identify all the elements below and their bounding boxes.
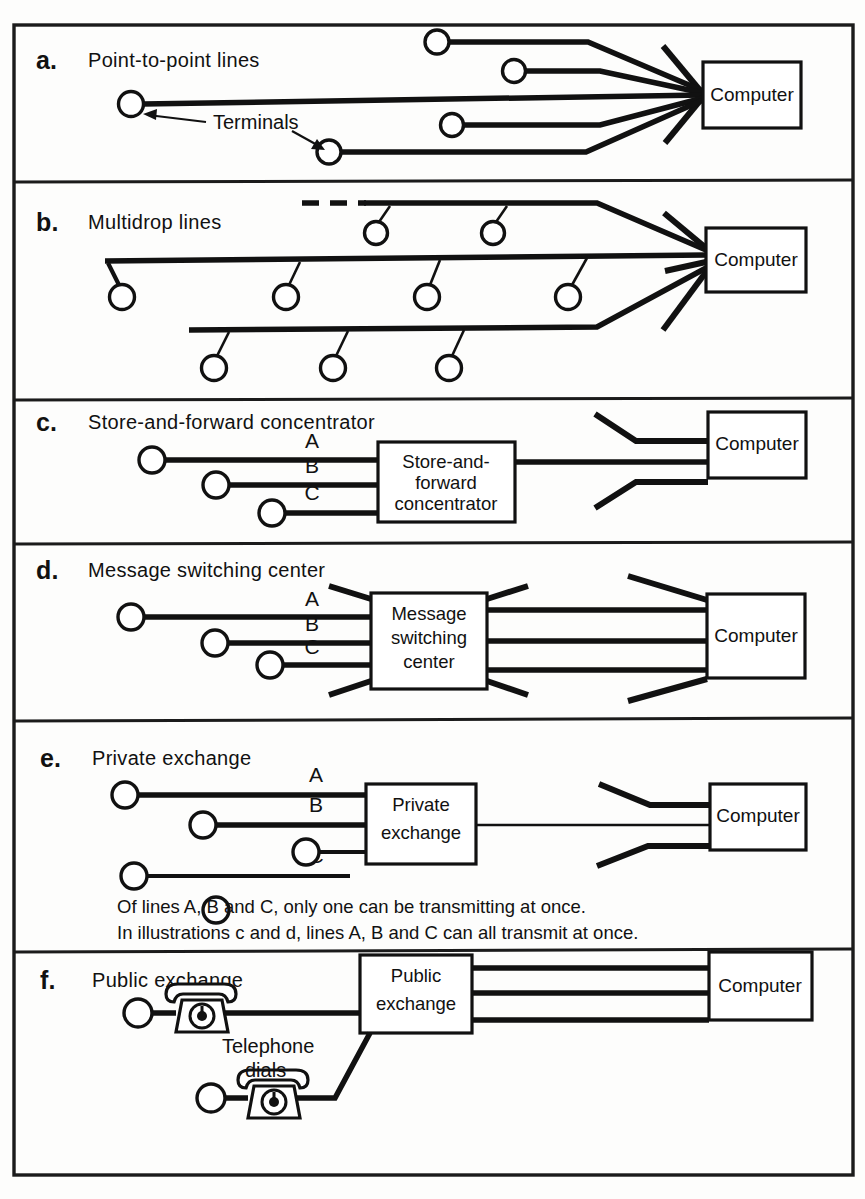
panel-a-title: Point-to-point lines [88,49,260,71]
figure-root: a. Point-to-point lines Terminals Comput… [0,0,865,1199]
panel-f-telephone-2-dial-stop [273,1092,276,1099]
panel-d-title: Message switching center [88,559,325,581]
panel-c-box-line-3: concentrator [395,493,498,514]
panel-c-terminal-c[interactable] [259,500,285,526]
panel-b-terminal-9[interactable] [437,356,462,381]
panel-b-terminal-5[interactable] [415,285,440,310]
panel-a-letter: a. [36,46,57,74]
panel-e-letter: e. [40,744,61,772]
panel-c-box-line-2: forward [415,472,477,493]
panel-b-terminal-1[interactable] [365,222,388,245]
panel-separator-a-b [14,180,853,182]
panel-f-annotation-line-1: Telephone [222,1035,314,1057]
panel-d-label-c: C [304,635,319,658]
panel-c-terminal-a[interactable] [139,447,165,473]
panel-f-telephone-1-dial-stop [201,1006,204,1013]
panel-f-terminal-1[interactable] [124,999,152,1027]
panel-f-computer-label: Computer [718,975,802,996]
panel-a-computer-label: Computer [710,84,794,105]
panel-e-note-1: Of lines A, B and C, only one can be tra… [117,896,586,917]
panel-e-computer-label: Computer [716,805,800,826]
panel-a-terminal-2[interactable] [503,60,526,83]
panel-a-terminal-3[interactable] [119,92,144,117]
panel-c-label-b: B [305,454,319,477]
panel-d-terminal-b[interactable] [202,630,228,656]
panel-b-computer-label: Computer [714,249,798,270]
panel-e-label-b: B [309,793,323,816]
panel-e-note-2: In illustrations c and d, lines A, B and… [117,922,638,943]
panel-d-terminal-a[interactable] [118,604,144,630]
panel-b-terminal-3[interactable] [110,285,135,310]
panel-d-letter: d. [36,556,59,584]
panel-c-box-line-1: Store-and- [402,451,489,472]
panel-b-letter: b. [36,208,59,236]
panel-c-letter: c. [36,408,57,436]
panel-f-terminal-2[interactable] [197,1084,225,1112]
panel-f-box-line-1: Public [391,965,441,986]
panel-d-box-line-1: Message [391,603,466,624]
panel-f-box-line-2: exchange [376,993,456,1014]
panel-c-label-a: A [305,429,319,452]
panel-e-title: Private exchange [92,747,251,769]
panel-a-terminals-label: Terminals [213,111,299,133]
panel-c-terminal-b[interactable] [203,472,229,498]
panel-e-terminal-a-circ[interactable] [112,782,138,808]
panel-f-letter: f. [40,966,56,994]
panel-e-label-a: A [309,763,323,786]
panel-c-computer-label: Computer [715,433,799,454]
panel-c-label-c: C [304,481,319,504]
panel-a-terminal-5[interactable] [317,140,341,164]
panel-e-box-line-2: exchange [381,822,461,843]
panel-separator-b-c [14,398,853,400]
panel-separator-c-d [14,542,853,544]
panel-d-label-a: A [305,587,319,610]
panel-f-annotation-line-2: dials [245,1059,286,1081]
panel-b-terminal-4[interactable] [274,285,299,310]
panel-b-terminal-8[interactable] [321,356,346,381]
panel-e-terminal-a[interactable] [121,863,147,889]
panel-d-label-b: B [305,612,319,635]
panel-e-terminal-c-circ[interactable] [293,839,319,865]
panel-d-computer-label: Computer [714,625,798,646]
panel-b-terminal-2[interactable] [482,222,505,245]
panel-e-terminal-b-circ[interactable] [190,812,216,838]
network-topology-figure: a. Point-to-point lines Terminals Comput… [0,0,865,1199]
panel-b-terminal-7[interactable] [202,356,227,381]
panel-b-title: Multidrop lines [88,211,221,233]
panel-e-box-line-1: Private [392,794,450,815]
panel-a-terminal-4[interactable] [441,114,464,137]
panel-d-box-line-3: center [403,651,454,672]
panel-d-box-line-2: switching [391,627,467,648]
panel-b-terminal-6[interactable] [556,285,581,310]
panel-d-terminal-c[interactable] [257,652,283,678]
panel-c-title: Store-and-forward concentrator [88,411,375,433]
panel-a-terminal-1[interactable] [425,30,449,54]
